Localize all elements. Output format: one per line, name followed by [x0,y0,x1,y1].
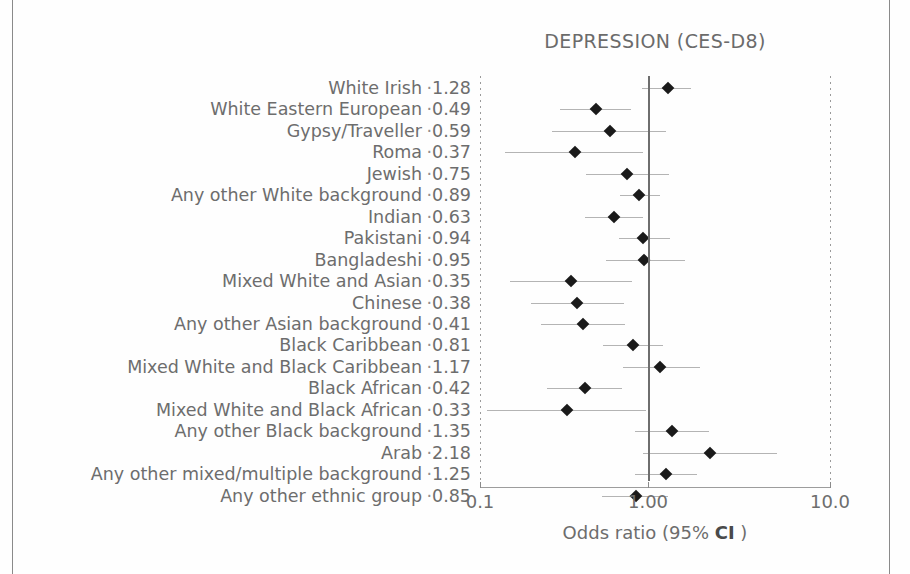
point-estimate-marker [603,125,616,138]
point-estimate-marker [569,146,582,159]
point-estimate-marker [659,468,672,481]
point-estimate-marker [577,318,590,331]
row-odds-ratio-value: 0.94 [432,229,480,247]
row-label: Indian [368,208,422,226]
point-estimate-marker [561,403,574,416]
row-label: Bangladeshi [315,251,422,269]
x-axis-line [480,487,830,488]
row-label: Mixed White and Black African [156,401,422,419]
row-odds-ratio-value: 0.81 [432,336,480,354]
point-estimate-marker [626,339,639,352]
row-label: Pakistani [344,229,422,247]
row-label: Mixed White and Black Caribbean [127,358,422,376]
row-odds-ratio-value: 0.63 [432,208,480,226]
row-label: Any other mixed/multiple background [91,465,422,483]
row-odds-ratio-value: 1.28 [432,79,480,97]
row-label: Any other ethnic group [220,487,422,505]
row-odds-ratio-value: 0.75 [432,165,480,183]
row-odds-ratio-value: 0.49 [432,100,480,118]
axis-tick-label: 0.1 [466,491,495,512]
axis-tick-label: 1.00 [628,491,668,512]
point-estimate-marker [590,103,603,116]
point-estimate-marker [665,425,678,438]
axis-caption-ci-abbrev: CI [715,522,735,543]
row-label: Black Caribbean [279,336,422,354]
axis-tick [648,482,649,488]
row-label: Any other Black background [174,422,422,440]
point-estimate-marker [661,82,674,95]
row-label: Roma [372,143,422,161]
point-estimate-marker [633,189,646,202]
row-odds-ratio-value: 0.89 [432,186,480,204]
point-estimate-marker [654,360,667,373]
row-label: White Irish [328,79,422,97]
row-odds-ratio-value: 2.18 [432,444,480,462]
x-axis-caption: Odds ratio (95% CI ) [480,522,830,543]
row-odds-ratio-value: 0.95 [432,251,480,269]
reference-line-or-1 [648,76,650,481]
row-label: Arab [381,444,422,462]
point-estimate-marker [571,296,584,309]
row-label: Any other White background [171,186,422,204]
row-odds-ratio-value: 0.33 [432,401,480,419]
row-odds-ratio-value: 1.25 [432,465,480,483]
axis-caption-suffix: ) [735,522,748,543]
row-label: Gypsy/Traveller [287,122,422,140]
row-odds-ratio-value: 0.41 [432,315,480,333]
point-estimate-marker [608,210,621,223]
row-odds-ratio-value: 1.35 [432,422,480,440]
forest-rows: White Irish·1.28White Eastern European·0… [0,0,910,500]
row-label: White Eastern European [210,100,422,118]
row-odds-ratio-value: 0.35 [432,272,480,290]
row-label: Chinese [352,294,422,312]
row-odds-ratio-value: 0.38 [432,294,480,312]
point-estimate-marker [578,382,591,395]
axis-caption-prefix: Odds ratio (95% [563,522,715,543]
row-odds-ratio-value: 0.42 [432,379,480,397]
row-odds-ratio-value: 1.17 [432,358,480,376]
axis-tick [480,482,481,488]
row-label: Mixed White and Asian [222,272,422,290]
point-estimate-marker [703,446,716,459]
row-odds-ratio-value: 0.59 [432,122,480,140]
point-estimate-marker [621,167,634,180]
row-label: Any other Asian background [174,315,422,333]
row-label: Jewish [367,165,422,183]
point-estimate-marker [565,275,578,288]
axis-tick [830,482,831,488]
axis-tick-label: 10.0 [810,491,850,512]
row-odds-ratio-value: 0.37 [432,143,480,161]
row-label: Black African [308,379,422,397]
